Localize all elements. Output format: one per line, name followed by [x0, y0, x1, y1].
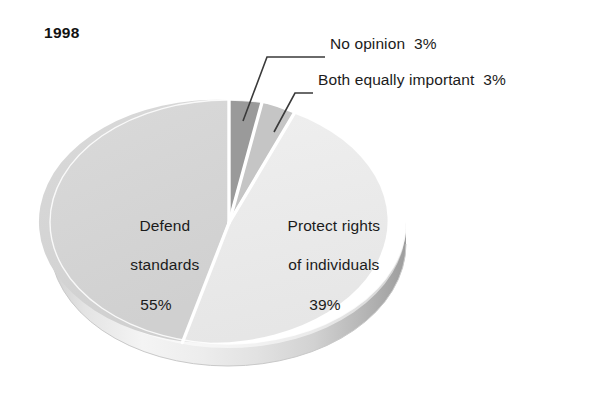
pie-chart-figure: 1998	[0, 0, 609, 405]
callout-label-no-opinion: No opinion 3%	[330, 35, 437, 53]
slice-label-defend-standards-line1: Defend	[140, 217, 191, 234]
slice-label-protect-rights-line2: of individuals	[288, 256, 379, 273]
slice-label-defend-standards-line2: standards	[130, 256, 199, 273]
callout-label-both-equally-important: Both equally important 3%	[318, 71, 506, 89]
slice-label-protect-rights: Protect rights of individuals 39%	[255, 196, 395, 355]
slice-label-defend-standards-value: 55%	[96, 295, 216, 315]
slice-label-protect-rights-line1: Protect rights	[287, 217, 380, 234]
slice-label-protect-rights-value: 39%	[255, 295, 395, 315]
slice-label-defend-standards: Defend standards 55%	[96, 196, 216, 355]
